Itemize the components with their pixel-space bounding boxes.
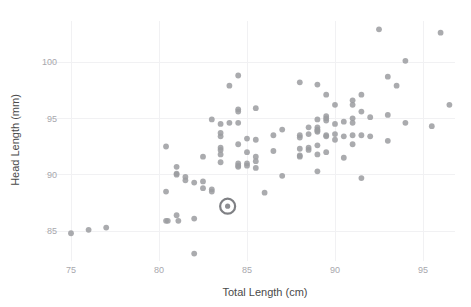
x-tick-label: 95: [418, 265, 428, 275]
data-point: [323, 133, 329, 139]
data-point: [175, 218, 181, 224]
data-point: [244, 149, 250, 155]
data-point: [429, 123, 435, 129]
x-tick-label: 80: [154, 265, 164, 275]
data-point: [315, 117, 321, 123]
data-point: [341, 155, 347, 161]
data-point: [235, 109, 241, 115]
data-point: [297, 146, 303, 152]
data-point: [174, 172, 180, 178]
data-point: [341, 119, 347, 125]
data-point: [385, 74, 391, 80]
highlight-center-dot[interactable]: [225, 204, 230, 209]
data-point: [279, 173, 285, 179]
data-point: [200, 185, 206, 191]
data-point: [165, 218, 171, 224]
data-point: [227, 83, 233, 89]
data-point: [403, 120, 409, 126]
data-point: [68, 230, 74, 236]
data-point: [359, 132, 365, 138]
x-tick-label: 90: [330, 265, 340, 275]
data-point: [332, 102, 338, 108]
scatter-plot-figure: 7580859095 859095100 Total Length (cm) H…: [0, 0, 471, 307]
data-point: [359, 175, 365, 181]
data-point: [218, 159, 224, 165]
data-point: [200, 179, 206, 185]
data-point: [403, 58, 409, 64]
data-point: [297, 79, 303, 85]
data-point: [271, 148, 277, 154]
data-point: [438, 30, 444, 36]
data-point: [306, 124, 312, 130]
data-point: [394, 83, 400, 89]
data-point: [359, 109, 365, 115]
data-point: [183, 177, 189, 183]
data-point: [262, 190, 268, 196]
data-point: [350, 141, 356, 147]
data-point: [174, 164, 180, 170]
data-point: [235, 73, 241, 79]
data-point: [253, 137, 259, 143]
data-point: [227, 120, 233, 126]
data-point: [315, 142, 321, 148]
data-point: [191, 216, 197, 222]
chart-canvas: 7580859095 859095100 Total Length (cm) H…: [0, 0, 471, 307]
data-point: [323, 92, 329, 98]
x-tick-label: 85: [242, 265, 252, 275]
data-point: [297, 154, 303, 160]
data-point: [350, 120, 356, 126]
data-point: [385, 138, 391, 144]
data-point: [86, 227, 92, 233]
data-point: [447, 102, 453, 108]
data-point: [271, 132, 277, 138]
data-point: [367, 133, 373, 139]
data-point: [235, 164, 241, 170]
data-point: [209, 117, 215, 123]
data-point: [218, 151, 224, 157]
data-point: [323, 149, 329, 155]
y-tick-label: 100: [42, 57, 57, 67]
data-point: [235, 141, 241, 147]
data-point: [253, 165, 259, 171]
data-point: [163, 144, 169, 150]
data-point: [332, 131, 338, 137]
data-point: [209, 189, 215, 195]
data-point: [376, 26, 382, 32]
x-axis-title: Total Length (cm): [223, 286, 308, 298]
y-tick-label: 90: [47, 170, 57, 180]
data-point: [279, 127, 285, 133]
data-point: [332, 121, 338, 127]
data-point: [341, 133, 347, 139]
data-point: [297, 135, 303, 141]
data-point: [306, 131, 312, 137]
y-axis-title: Head Length (mm): [9, 94, 21, 186]
data-point: [244, 163, 250, 169]
data-point: [218, 133, 224, 139]
data-point: [350, 132, 356, 138]
data-point: [350, 102, 356, 108]
data-point: [253, 158, 259, 164]
data-point: [385, 112, 391, 118]
data-point: [315, 168, 321, 174]
data-point: [306, 147, 312, 153]
x-tick-label: 75: [66, 265, 76, 275]
data-point: [200, 154, 206, 160]
y-tick-label: 95: [47, 114, 57, 124]
data-point: [253, 105, 259, 111]
data-point: [332, 137, 338, 143]
data-point: [191, 251, 197, 257]
data-point: [163, 189, 169, 195]
data-point: [315, 129, 321, 135]
data-point: [191, 180, 197, 186]
data-point: [323, 118, 329, 124]
data-point: [235, 120, 241, 126]
data-point: [103, 225, 109, 231]
data-point: [174, 212, 180, 218]
data-point: [359, 92, 365, 98]
data-point: [244, 136, 250, 142]
data-point: [315, 82, 321, 88]
data-point: [367, 114, 373, 120]
data-point: [218, 121, 224, 127]
y-tick-label: 85: [47, 226, 57, 236]
data-point: [315, 151, 321, 157]
